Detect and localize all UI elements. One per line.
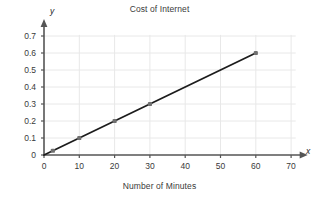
x-axis-title: Number of Minutes (0, 181, 319, 191)
x-tick-label: 30 (138, 161, 162, 171)
y-axis-arrowhead (41, 19, 48, 27)
chart-container: Cost of Internet y x 00.10.20.30.40.50.6… (0, 0, 319, 199)
y-tick-label: 0.3 (12, 99, 36, 109)
x-tick-label: 40 (173, 161, 197, 171)
x-axis-letter: x (306, 146, 310, 156)
data-point-marker (51, 149, 55, 153)
data-point-marker (77, 136, 81, 140)
x-tick-label: 10 (67, 161, 91, 171)
data-series (44, 51, 258, 155)
y-tick-label: 0.7 (12, 31, 36, 41)
data-point-marker (148, 102, 152, 106)
x-tick-label: 70 (279, 161, 303, 171)
y-tick-label: 0 (12, 150, 36, 160)
y-axis-letter: y (50, 6, 54, 16)
data-point-marker (254, 51, 258, 55)
x-tick-label: 60 (244, 161, 268, 171)
x-tick-label: 20 (103, 161, 127, 171)
y-tick-label: 0.4 (12, 82, 36, 92)
x-tick-label: 50 (209, 161, 233, 171)
y-tick-label: 0.2 (12, 116, 36, 126)
y-tick-label: 0.1 (12, 133, 36, 143)
y-tick-label: 0.5 (12, 65, 36, 75)
data-point-marker (113, 119, 117, 123)
x-tick-label: 0 (32, 161, 56, 171)
y-tick-label: 0.6 (12, 48, 36, 58)
